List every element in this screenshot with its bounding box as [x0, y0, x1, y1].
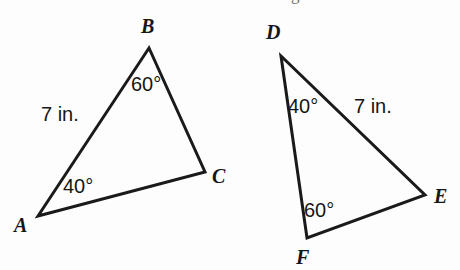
vertex-label-a: A [14, 215, 27, 235]
vertex-label-d: D [266, 22, 280, 42]
side-label-ab-length: 7 in. [41, 104, 79, 124]
geometry-figure: g A B C 60° 40° 7 in. D E F 40° 7 in. 60… [0, 0, 460, 270]
vertex-label-c: C [212, 166, 225, 186]
angle-label-a-40: 40° [63, 176, 93, 196]
angle-label-d-40: 40° [288, 96, 318, 116]
angle-label-b-60: 60° [131, 74, 161, 94]
vertex-label-f: F [296, 247, 309, 267]
triangles-canvas [0, 0, 460, 270]
cut-off-top-text: g [291, 0, 300, 3]
triangle-def-outline [281, 56, 425, 238]
vertex-label-b: B [141, 16, 154, 36]
angle-label-f-60: 60° [304, 200, 334, 220]
side-label-de-length: 7 in. [354, 96, 392, 116]
vertex-label-e: E [434, 186, 447, 206]
